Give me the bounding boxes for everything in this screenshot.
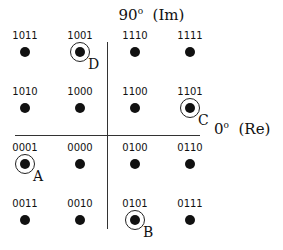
- point-code-label: 1111: [170, 30, 210, 41]
- imaginary-axis-label: 90o (Im): [0, 6, 283, 24]
- point-code-label: 1001: [60, 30, 100, 41]
- point-dot-icon: [75, 215, 85, 225]
- point-code-label: 1010: [5, 86, 45, 97]
- highlight-ring-icon: [70, 42, 90, 62]
- real-axis: [15, 135, 200, 136]
- point-dot-icon: [75, 103, 85, 113]
- point-dot-icon: [185, 159, 195, 169]
- point-code-label: 0010: [60, 198, 100, 209]
- point-code-label: 0001: [5, 142, 45, 153]
- point-marker-label: B: [143, 224, 153, 240]
- point-marker-label: A: [33, 168, 43, 184]
- real-axis-label: 0o (Re): [214, 120, 270, 138]
- point-marker-label: D: [88, 56, 99, 72]
- point-dot-icon: [20, 215, 30, 225]
- highlight-ring-icon: [125, 210, 145, 230]
- point-code-label: 1011: [5, 30, 45, 41]
- highlight-ring-icon: [180, 98, 200, 118]
- point-dot-icon: [20, 103, 30, 113]
- point-code-label: 1101: [170, 86, 210, 97]
- point-dot-icon: [20, 47, 30, 57]
- point-dot-icon: [185, 47, 195, 57]
- point-dot-icon: [130, 103, 140, 113]
- point-marker-label: C: [198, 112, 209, 128]
- point-code-label: 1100: [115, 86, 155, 97]
- point-dot-icon: [75, 159, 85, 169]
- point-code-label: 0011: [5, 198, 45, 209]
- point-code-label: 1000: [60, 86, 100, 97]
- point-dot-icon: [185, 215, 195, 225]
- point-code-label: 0101: [115, 198, 155, 209]
- point-code-label: 0111: [170, 198, 210, 209]
- point-dot-icon: [130, 47, 140, 57]
- point-code-label: 1110: [115, 30, 155, 41]
- point-code-label: 0100: [115, 142, 155, 153]
- point-code-label: 0000: [60, 142, 100, 153]
- point-dot-icon: [130, 159, 140, 169]
- highlight-ring-icon: [15, 154, 35, 174]
- point-code-label: 0110: [170, 142, 210, 153]
